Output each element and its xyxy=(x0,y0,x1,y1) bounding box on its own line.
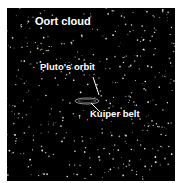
orbit-annotations xyxy=(0,0,177,183)
plutos-orbit-pointer-line xyxy=(93,77,99,95)
kuiper-belt-ring xyxy=(78,100,96,103)
oort-cloud-label: Oort cloud xyxy=(35,16,91,27)
plutos-orbit-label: Pluto's orbit xyxy=(40,62,95,72)
plutos-orbit-ellipse xyxy=(75,98,99,104)
kuiper-belt-label: Kuiper belt xyxy=(90,109,140,119)
